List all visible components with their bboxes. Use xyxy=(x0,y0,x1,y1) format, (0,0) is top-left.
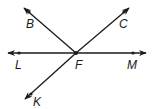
ray-fk xyxy=(25,53,76,99)
label-k: K xyxy=(33,95,42,109)
point-l xyxy=(17,51,20,54)
geometry-diagram: B C L F M K xyxy=(0,0,153,109)
point-b xyxy=(27,10,30,13)
label-l: L xyxy=(15,58,22,72)
point-m xyxy=(131,51,134,54)
label-f: F xyxy=(75,58,83,72)
label-c: C xyxy=(119,17,128,31)
point-c xyxy=(122,10,125,13)
label-m: M xyxy=(127,58,137,72)
point-f xyxy=(74,51,78,55)
label-b: B xyxy=(26,17,34,31)
